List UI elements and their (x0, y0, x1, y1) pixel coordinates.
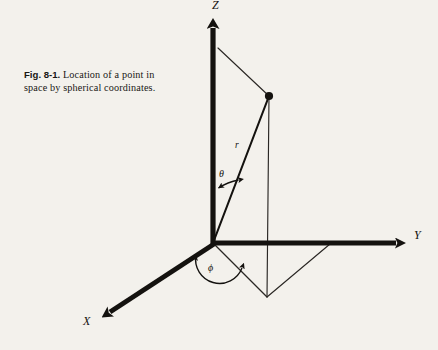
line-origin-to-projection (213, 243, 267, 297)
construction-lines (213, 48, 330, 297)
radial-label-r: r (235, 140, 239, 150)
angle-label-theta: θ (219, 168, 224, 179)
point-marker (265, 92, 273, 100)
phi-arc (196, 255, 242, 283)
figure-page: Fig. 8-1. Location of a point in space b… (0, 0, 438, 350)
axis-label-z: Z (212, 0, 219, 13)
line-projection-to-yaxis (267, 244, 330, 297)
axis-x (110, 244, 214, 312)
axis-label-y: Y (414, 228, 421, 243)
line-zaxis-to-point (218, 48, 269, 96)
angle-label-phi: ϕ (208, 262, 213, 273)
figure-number: Fig. 8-1. (24, 69, 60, 80)
axis-label-x: X (83, 314, 90, 329)
line-point-to-projection (267, 96, 269, 297)
figure-caption: Fig. 8-1. Location of a point in space b… (24, 68, 179, 94)
